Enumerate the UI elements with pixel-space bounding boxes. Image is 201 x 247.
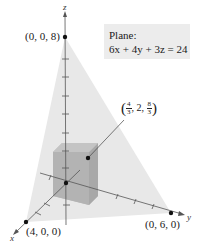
plane-equation: 6x + 4y + 3z = 24 <box>109 43 188 55</box>
point-0-0-8 <box>63 35 67 39</box>
point-4-0-0 <box>24 220 28 224</box>
plane-label-box: Plane: 6x + 4y + 3z = 24 <box>104 24 190 59</box>
x-axis-label: x <box>10 234 14 243</box>
point-0-6-0 <box>169 211 173 215</box>
plane-triangle <box>26 37 171 222</box>
label-0-6-0: (0, 6, 0) <box>145 219 180 230</box>
label-0-0-8: (0, 0, 8) <box>25 31 60 42</box>
y-axis-label: y <box>187 213 191 222</box>
plane-title: Plane: <box>109 29 137 41</box>
box-corner-label: (43, 2, 83) <box>121 100 157 117</box>
point-origin <box>64 181 68 185</box>
y-value: 2 <box>137 102 142 113</box>
point-box-corner <box>86 156 90 160</box>
x-fraction: 43 <box>126 101 132 116</box>
label-4-0-0: (4, 0, 0) <box>26 226 61 237</box>
z-axis-label: z <box>63 3 67 12</box>
x-denominator: 3 <box>126 109 132 116</box>
